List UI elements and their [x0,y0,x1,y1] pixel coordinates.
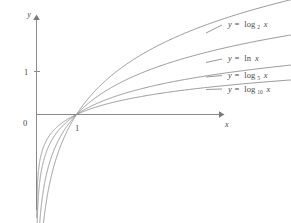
curve-label-log2-lhs: y = [227,19,240,29]
leader-line-ln [206,59,222,63]
curve-labels-group: y = log 2 x y = ln x y = log 5 x y = log… [227,19,271,96]
curve-label-log10-sub: 10 [257,89,263,95]
curve-log10 [37,73,291,218]
y-axis-label: y [26,10,31,19]
curve-label-log10-arg: x [266,84,271,94]
curve-label-log2-arg: x [263,19,268,29]
curve-label-log5-sub: 5 [257,75,260,81]
curve-label-log10-fn: log [244,84,256,94]
x-axis-arrowhead [219,111,225,118]
curve-label-log5-fn: log [244,70,256,80]
curve-label-log2-sub: 2 [257,24,260,30]
curve-ln [37,19,291,223]
curve-label-log2-fn: log [244,19,256,29]
curve-label-log2: y = log 2 x [227,19,268,31]
curve-label-log10-lhs: y = [227,84,240,94]
leader-line-log10 [206,89,222,90]
curve-label-log5: y = log 5 x [227,70,268,82]
leader-lines-group [206,25,222,90]
x-tick-label-1: 1 [75,123,79,133]
curve-label-log5-arg: x [263,70,268,80]
curves-group [37,0,291,223]
figure-root: y x 0 1 1 y = log 2 x y = ln x [0,0,291,223]
curve-label-ln-arg: x [254,53,259,63]
curve-label-log5-lhs: y = [227,70,240,80]
curve-label-ln: y = ln x [227,53,259,63]
curve-log5 [37,55,291,223]
y-axis-arrowhead [33,15,40,21]
axes-group [33,15,224,211]
curve-log2 [38,0,291,223]
x-axis-label: x [224,120,229,129]
curve-label-ln-fn: ln [244,53,251,63]
leader-line-log2 [206,25,222,33]
origin-label: 0 [23,118,27,128]
logarithm-graph-svg: y x 0 1 1 y = log 2 x y = ln x [0,0,291,223]
y-tick-label-1: 1 [24,67,28,77]
curve-label-log10: y = log 10 x [227,84,271,96]
curve-label-ln-lhs: y = [227,53,240,63]
